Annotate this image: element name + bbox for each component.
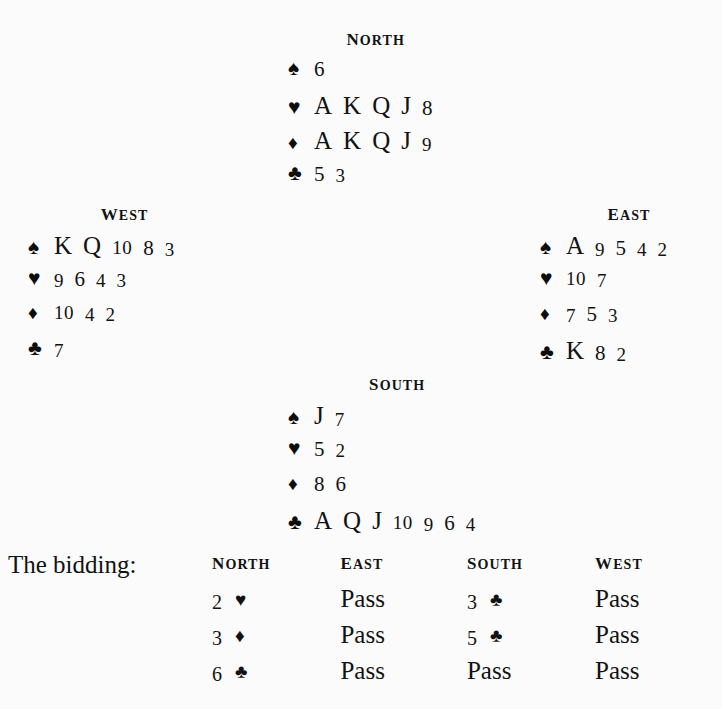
heart-icon: ♥ xyxy=(288,97,314,118)
card-rank: 10 xyxy=(393,513,413,532)
east-spade-row: ♠ A9542 xyxy=(540,233,678,268)
card-rank: A xyxy=(314,93,332,118)
card-rank: 9 xyxy=(595,240,605,259)
heart-icon: ♥ xyxy=(288,438,314,459)
bidding-col-west: WEST xyxy=(595,548,722,584)
card-rank: J xyxy=(314,403,324,428)
bidding-title: The bidding: xyxy=(8,552,136,577)
bid-suit-icon: ♣ xyxy=(490,589,502,610)
club-icon: ♣ xyxy=(540,342,566,363)
east-club-row: ♣ K82 xyxy=(540,338,678,373)
card-rank: 4 xyxy=(85,305,95,324)
card-rank: 9 xyxy=(54,271,64,290)
card-rank: A xyxy=(566,233,584,258)
bid-suit-icon: ♣ xyxy=(235,661,247,682)
bidding-col-south: SOUTH xyxy=(467,548,595,584)
bid-pass: Pass xyxy=(467,657,511,684)
spade-icon: ♠ xyxy=(288,58,314,79)
south-heart-cards: 52 xyxy=(314,438,356,459)
bidding-cell: Pass xyxy=(340,620,466,656)
bidding-col-north: NORTH xyxy=(212,548,340,584)
card-rank: 8 xyxy=(314,474,325,495)
bid-pass: Pass xyxy=(340,657,384,684)
card-rank: 9 xyxy=(422,135,432,154)
north-heart-cards: AKQJ8 xyxy=(314,93,443,118)
bid-pass: Pass xyxy=(595,621,639,648)
heart-icon: ♥ xyxy=(28,268,54,289)
card-rank: A xyxy=(314,128,332,153)
south-seat-label: SOUTH xyxy=(308,375,486,395)
card-rank: 8 xyxy=(143,238,154,259)
north-club-row: ♣ 53 xyxy=(288,163,443,198)
west-heart-row: ♥ 9643 xyxy=(28,268,185,303)
card-rank: 7 xyxy=(54,341,64,360)
bid-suit-icon: ♦ xyxy=(235,625,245,646)
south-spade-row: ♠ J7 xyxy=(288,403,486,438)
bid-suit-icon: ♣ xyxy=(490,625,502,646)
card-rank: 5 xyxy=(587,304,598,325)
card-rank: 3 xyxy=(608,306,618,325)
north-diamond-row: ♦ AKQJ9 xyxy=(288,128,443,163)
card-rank: Q xyxy=(83,233,101,258)
east-diamond-cards: 753 xyxy=(566,303,629,324)
card-rank: K xyxy=(343,93,361,118)
card-rank: 5 xyxy=(314,164,325,185)
card-rank: 6 xyxy=(314,59,325,80)
diamond-icon: ♦ xyxy=(288,474,314,493)
east-heart-cards: 107 xyxy=(566,269,618,288)
north-seat-label: NORTH xyxy=(308,30,443,50)
card-rank: K xyxy=(54,233,72,258)
south-club-cards: AQJ10964 xyxy=(314,508,486,533)
bidding-cell: 3♦ xyxy=(212,620,340,656)
east-diamond-row: ♦ 753 xyxy=(540,303,678,338)
diamond-icon: ♦ xyxy=(28,303,54,322)
card-rank: 9 xyxy=(424,515,434,534)
card-rank: 4 xyxy=(466,515,476,534)
spade-icon: ♠ xyxy=(288,407,314,428)
south-heart-row: ♥ 52 xyxy=(288,438,486,473)
north-club-cards: 53 xyxy=(314,163,356,184)
spade-icon: ♠ xyxy=(540,237,566,258)
bidding-cell: Pass xyxy=(595,620,722,656)
north-spade-row: ♠ 6 xyxy=(288,58,443,93)
card-rank: 10 xyxy=(566,269,586,288)
diamond-icon: ♦ xyxy=(288,133,314,152)
north-spade-cards: 6 xyxy=(314,58,336,79)
card-rank: 10 xyxy=(112,238,132,257)
bidding-cell: Pass xyxy=(340,656,466,692)
east-seat-label: EAST xyxy=(580,205,678,225)
north-heart-row: ♥ AKQJ8 xyxy=(288,93,443,128)
card-rank: J xyxy=(401,128,411,153)
south-diamond-row: ♦ 86 xyxy=(288,473,486,508)
card-rank: 4 xyxy=(96,271,106,290)
card-rank: 8 xyxy=(595,343,606,364)
east-heart-row: ♥ 107 xyxy=(540,268,678,303)
bidding-cell: 6♣ xyxy=(212,656,340,692)
bidding-cell: Pass xyxy=(595,584,722,620)
card-rank: 2 xyxy=(617,345,627,364)
west-diamond-row: ♦ 1042 xyxy=(28,303,185,338)
bidding-table: NORTH EAST SOUTH WEST 2♥Pass3♣Pass3♦Pass… xyxy=(212,548,722,692)
south-hand: SOUTH ♠ J7 ♥ 52 ♦ 86 ♣ AQJ10964 xyxy=(288,375,486,543)
bid-level: 6 xyxy=(212,663,222,685)
bid-level: 3 xyxy=(467,591,477,613)
bid-level: 5 xyxy=(467,627,477,649)
bid-pass: Pass xyxy=(340,585,384,612)
bidding-cell: Pass xyxy=(595,656,722,692)
north-hand: NORTH ♠ 6 ♥ AKQJ8 ♦ AKQJ9 ♣ 53 xyxy=(288,30,443,198)
bid-pass: Pass xyxy=(595,657,639,684)
club-icon: ♣ xyxy=(288,512,314,533)
bid-level: 2 xyxy=(212,591,222,613)
heart-icon: ♥ xyxy=(540,268,566,289)
bidding-row: 3♦Pass5♣Pass xyxy=(212,620,722,656)
card-rank: 7 xyxy=(597,271,607,290)
bid-pass: Pass xyxy=(595,585,639,612)
card-rank: 7 xyxy=(566,306,576,325)
bid-pass: Pass xyxy=(340,621,384,648)
west-spade-cards: KQ1083 xyxy=(54,233,185,258)
bidding-cell: 2♥ xyxy=(212,584,340,620)
card-rank: A xyxy=(314,508,332,533)
card-rank: 10 xyxy=(54,303,74,322)
bidding-cell: Pass xyxy=(340,584,466,620)
card-rank: 8 xyxy=(422,98,433,119)
